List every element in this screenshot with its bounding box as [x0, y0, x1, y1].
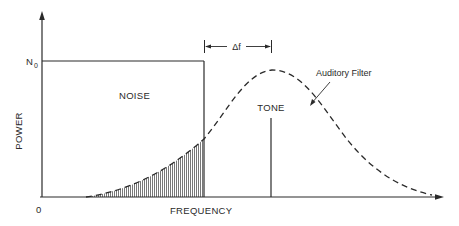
tone-label: TONE: [257, 102, 284, 113]
svg-text:N: N: [26, 56, 33, 67]
delta-f-bracket: Δf: [205, 40, 272, 53]
svg-text:0: 0: [34, 62, 38, 69]
origin-label: 0: [36, 204, 42, 215]
noise-label: NOISE: [119, 90, 150, 101]
auditory-filter-diagram: Δf Auditory Filter NOISE TONE N 0 POWER …: [0, 0, 459, 226]
delta-f-label: Δf: [232, 42, 241, 52]
auditory-filter-label: Auditory Filter: [316, 68, 372, 78]
y-axis: [39, 11, 45, 197]
n0-level-label: N 0: [26, 56, 38, 69]
y-axis-label: POWER: [13, 112, 24, 149]
filter-annotation: Auditory Filter: [310, 68, 372, 106]
x-axis-label: FREQUENCY: [170, 205, 233, 216]
arrow-right-icon: [265, 45, 271, 49]
arrow-left-icon: [205, 45, 211, 49]
shaded-overlap-region: [86, 130, 204, 197]
